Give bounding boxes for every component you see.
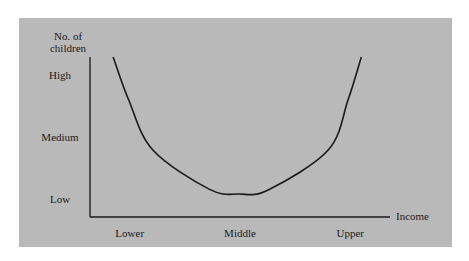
y-tick-label-low: Low — [50, 193, 70, 205]
x-tick-label-upper: Upper — [337, 227, 365, 239]
x-axis-label: Income — [396, 210, 429, 222]
x-tick-label-middle: Middle — [224, 227, 256, 239]
chart: No. of children Income Low Medium High L… — [0, 0, 469, 261]
y-axis-label-line-1: No. of — [54, 30, 82, 42]
y-axis-label-line-2: children — [50, 42, 87, 54]
y-tick-label-high: High — [49, 69, 72, 81]
y-tick-label-medium: Medium — [41, 131, 79, 143]
x-tick-label-lower: Lower — [115, 227, 144, 239]
series-line-children-vs-income — [113, 57, 361, 195]
